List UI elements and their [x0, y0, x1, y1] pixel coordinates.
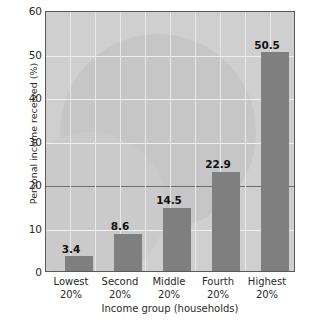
bar-chart: Personal income received (%) 60 50 40 30… [0, 0, 315, 323]
x-tick-lowest-20-line1: Lowest [54, 276, 89, 287]
y-axis-ticks: 60 50 40 30 20 10 0 [12, 0, 42, 323]
y-tick-50: 50 [18, 50, 42, 60]
x-tick-highest-20-line1: Highest [248, 276, 286, 287]
gridline-v-3 [120, 12, 121, 271]
gridline-v-2 [95, 12, 96, 271]
y-tick-20: 20 [18, 180, 42, 190]
x-tick-highest-20: Highest 20% [238, 276, 296, 301]
bar-middle-20[interactable] [163, 208, 191, 271]
bar-value-middle-20: 14.5 [148, 194, 190, 206]
bar-value-fourth-20: 22.9 [197, 158, 239, 170]
bar-value-lowest-20: 3.4 [50, 243, 92, 255]
y-tick-10: 10 [18, 224, 42, 234]
x-tick-middle-20-line1: Middle [152, 276, 185, 287]
y-tick-0: 0 [18, 267, 42, 277]
bar-value-second-20: 8.6 [99, 220, 141, 232]
x-tick-highest-20-line2: 20% [238, 289, 296, 302]
bar-second-20[interactable] [114, 234, 142, 271]
y-tick-30: 30 [18, 137, 42, 147]
x-axis-label: Income group (households) [45, 303, 295, 314]
bar-lowest-20[interactable] [65, 256, 93, 271]
gridline-v-6 [195, 12, 196, 271]
x-tick-fourth-20-line1: Fourth [202, 276, 234, 287]
y-tick-60: 60 [18, 6, 42, 16]
gridline-v-4 [145, 12, 146, 271]
bar-highest-20[interactable] [261, 52, 289, 271]
bar-value-highest-20: 50.5 [246, 39, 288, 51]
gridline-v-1 [70, 12, 71, 271]
x-tick-second-20-line1: Second [102, 276, 139, 287]
y-tick-40: 40 [18, 93, 42, 103]
bar-fourth-20[interactable] [212, 172, 240, 271]
